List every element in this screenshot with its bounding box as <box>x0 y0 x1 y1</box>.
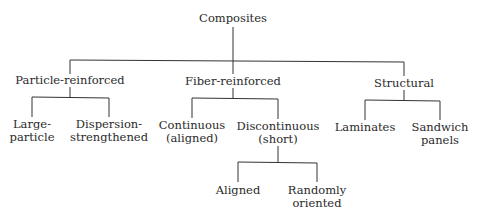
node-sandwich-panels: Sandwich panels <box>412 121 469 147</box>
node-continuous-aligned: Continuous (aligned) <box>159 119 225 145</box>
node-label-line: Aligned <box>216 184 261 197</box>
node-label: Particle-reinforced <box>15 74 124 87</box>
node-randomly-oriented: Randomly oriented <box>288 184 347 210</box>
node-label-line: oriented <box>288 197 347 210</box>
node-label-line: (short) <box>237 133 320 146</box>
node-particle-reinforced: Particle-reinforced <box>15 74 124 87</box>
node-label-line: Laminates <box>335 121 396 134</box>
node-composites: Composites <box>199 12 267 25</box>
node-structural: Structural <box>374 77 434 90</box>
node-label-line: panels <box>412 134 469 147</box>
node-label-line: (aligned) <box>159 132 225 145</box>
node-label: Structural <box>374 77 434 90</box>
node-large-particle: Large- particle <box>10 118 55 144</box>
node-dispersion-strengthened: Dispersion- strengthened <box>70 118 148 144</box>
node-label-line: strengthened <box>70 131 148 144</box>
node-aligned: Aligned <box>216 184 261 197</box>
node-discontinuous-short: Discontinuous (short) <box>237 120 320 146</box>
node-laminates: Laminates <box>335 121 396 134</box>
node-label: Composites <box>199 12 267 25</box>
node-label: Fiber-reinforced <box>185 75 281 88</box>
node-label-line: particle <box>10 131 55 144</box>
node-fiber-reinforced: Fiber-reinforced <box>185 75 281 88</box>
